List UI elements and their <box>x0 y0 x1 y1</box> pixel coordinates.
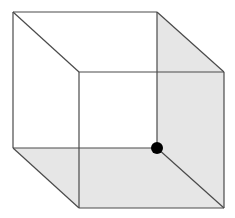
cube-canvas <box>0 0 235 218</box>
vertex-marker-dot <box>151 142 163 154</box>
necker-cube-diagram <box>0 0 235 218</box>
cube-edge <box>13 12 79 72</box>
